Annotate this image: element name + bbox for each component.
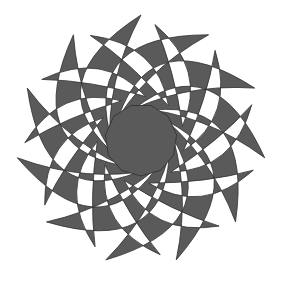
pattern-figure: Rotational crescent star pattern — [0, 0, 281, 281]
crescent-star-pattern — [0, 0, 281, 281]
